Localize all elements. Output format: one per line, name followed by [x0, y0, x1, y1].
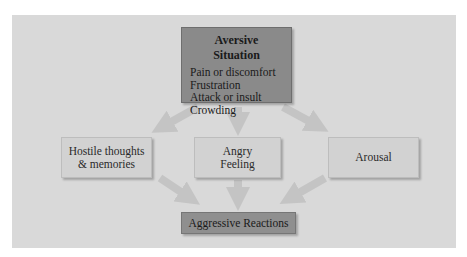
arrow-arousal-to-bottom [290, 178, 325, 198]
hostile-thoughts-line2: & memories [78, 158, 135, 171]
hostile-thoughts-box: Hostile thoughts & memories [61, 137, 152, 178]
angry-feeling-box: Angry Feeling [194, 137, 281, 178]
aversive-item: Crowding [190, 104, 236, 117]
arrow-top-to-arousal [283, 107, 318, 126]
aversive-item: Attack or insult [190, 91, 262, 104]
aggressive-reactions-box: Aggressive Reactions [181, 212, 296, 234]
arousal-label: Arousal [355, 151, 391, 164]
aversive-situation-box: Aversive Situation Pain or discomfort Fr… [181, 27, 292, 103]
hostile-thoughts-line1: Hostile thoughts [69, 145, 145, 158]
aversive-situation-title: Aversive Situation [190, 33, 283, 63]
arrow-hostile-to-bottom [160, 178, 190, 198]
aversive-item: Pain or discomfort [190, 66, 276, 79]
aggressive-reactions-label: Aggressive Reactions [189, 217, 289, 229]
angry-feeling-line1: Angry [223, 145, 252, 158]
angry-feeling-line2: Feeling [220, 158, 255, 171]
arousal-box: Arousal [328, 137, 419, 178]
aversive-item: Frustration [190, 79, 240, 92]
